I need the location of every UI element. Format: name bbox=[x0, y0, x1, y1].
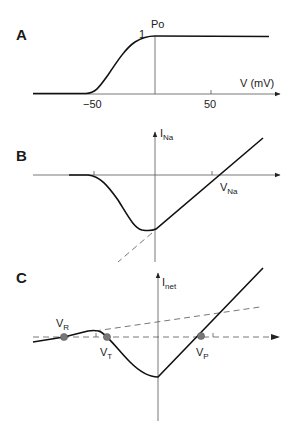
panel-b: B INa VNa bbox=[16, 127, 280, 262]
y-label-inet: Inet bbox=[162, 276, 177, 291]
vp-label: VP bbox=[196, 346, 209, 361]
panel-c-label: C bbox=[16, 269, 27, 286]
panel-a: A Po 1 V (mV) −50 50 bbox=[16, 18, 280, 110]
extrapolation-dashed-line bbox=[118, 233, 152, 262]
vna-marker-label: VNa bbox=[220, 181, 238, 196]
figure-canvas: A Po 1 V (mV) −50 50 B INa VNa C bbox=[0, 0, 298, 429]
vr-label: VR bbox=[56, 317, 69, 332]
vp-point bbox=[197, 332, 204, 339]
panel-c: C Inet VR VT VP bbox=[16, 268, 280, 421]
leak-dashed-line bbox=[95, 307, 260, 331]
panel-a-label: A bbox=[16, 26, 27, 43]
x-axis-arrowhead bbox=[271, 334, 280, 340]
vr-point bbox=[60, 333, 67, 340]
y-label-ina: INa bbox=[160, 127, 174, 142]
x-tick-50: 50 bbox=[204, 98, 216, 110]
y-tick-1: 1 bbox=[139, 28, 145, 40]
sodium-current-curve bbox=[69, 138, 263, 231]
y-label-po: Po bbox=[151, 18, 164, 30]
vt-label: VT bbox=[100, 346, 112, 361]
x-label-v: V (mV) bbox=[240, 77, 274, 89]
panel-b-label: B bbox=[16, 147, 27, 164]
vt-point bbox=[103, 333, 110, 340]
x-tick-neg50: −50 bbox=[83, 98, 102, 110]
open-probability-curve bbox=[33, 36, 269, 94]
